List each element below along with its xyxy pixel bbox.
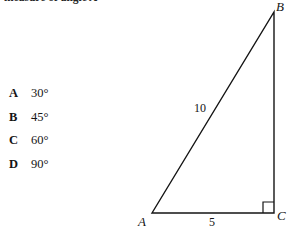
- vertex-label-a: A: [138, 214, 146, 230]
- triangle-outline: [152, 12, 274, 213]
- right-angle-marker: [263, 202, 274, 213]
- side-length-base: 5: [209, 215, 215, 230]
- triangle-svg: [0, 0, 289, 232]
- vertex-label-b: B: [276, 0, 284, 15]
- question-figure-page: measure of angle A A 30° B 45° C 60° D 9…: [0, 0, 289, 232]
- side-length-hypotenuse: 10: [194, 101, 206, 116]
- triangle-diagram: A B C 10 5: [0, 0, 289, 232]
- vertex-label-c: C: [277, 208, 286, 224]
